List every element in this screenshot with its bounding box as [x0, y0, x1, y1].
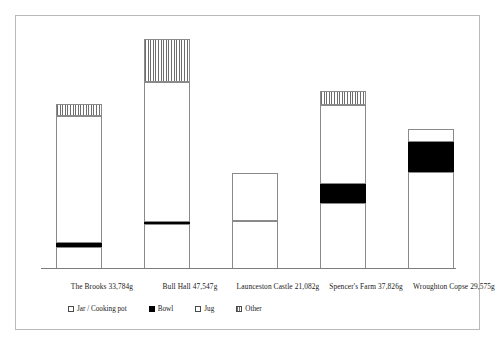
segment-jar — [232, 173, 278, 221]
chart-figure: The Brooks 33,784g Bull Hall 47,547g Lau… — [15, 15, 480, 330]
bar-wroughton-copse[interactable] — [408, 129, 454, 269]
segment-bowl — [320, 184, 366, 203]
segment-jug — [320, 203, 366, 269]
x-label-wroughton-copse: Wroughton Copse 29,575g — [384, 282, 497, 291]
segment-jug — [144, 224, 190, 269]
segment-jug — [408, 172, 454, 269]
legend-label-bowl: Bowl — [158, 306, 174, 313]
segment-other — [56, 104, 102, 116]
segment-other — [144, 39, 190, 82]
legend-swatch-other-icon — [236, 306, 242, 312]
segment-jar — [408, 129, 454, 142]
legend-label-jug: Jug — [204, 306, 214, 313]
legend-label-jar: Jar / Cooking pot — [77, 306, 127, 313]
segment-jug — [232, 221, 278, 269]
legend-item-jug[interactable]: Jug — [195, 306, 214, 313]
segment-bowl — [56, 243, 102, 247]
legend-swatch-jug-icon — [195, 306, 201, 312]
segment-jar — [144, 82, 190, 222]
legend-label-other: Other — [245, 306, 261, 313]
segment-bowl — [408, 142, 454, 172]
legend-item-other[interactable]: Other — [236, 306, 261, 313]
segment-jug — [56, 247, 102, 269]
bar-spencers-farm[interactable] — [320, 91, 366, 269]
segment-other — [320, 91, 366, 105]
legend-swatch-bowl-icon — [149, 306, 155, 312]
segment-jar — [56, 116, 102, 243]
plot-area: The Brooks 33,784g Bull Hall 47,547g Lau… — [16, 16, 481, 331]
legend-swatch-jar-icon — [68, 306, 74, 312]
bar-launceston-castle[interactable] — [232, 173, 278, 269]
segment-bowl — [144, 222, 190, 224]
bar-bull-hall[interactable] — [144, 39, 190, 269]
x-axis-baseline — [41, 268, 456, 269]
chart-legend: Jar / Cooking pot Bowl Jug Other — [68, 306, 284, 313]
legend-item-bowl[interactable]: Bowl — [149, 306, 174, 313]
bar-the-brooks[interactable] — [56, 104, 102, 269]
legend-item-jar[interactable]: Jar / Cooking pot — [68, 306, 127, 313]
segment-jar — [320, 105, 366, 184]
